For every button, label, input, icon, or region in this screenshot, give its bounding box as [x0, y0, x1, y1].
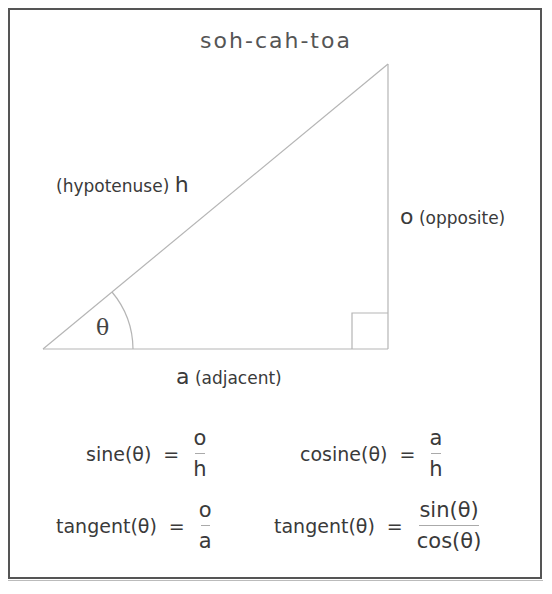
sine-formula: sine(θ) = o h — [86, 426, 207, 481]
fraction-bar — [431, 453, 440, 454]
tangent-sin-cos-formula: tangent(θ) = sin(θ) cos(θ) — [274, 498, 481, 553]
formula-lhs: sine(θ) — [86, 443, 151, 465]
numerator: a — [430, 426, 443, 450]
fraction: o h — [193, 426, 206, 481]
fraction-bar — [195, 453, 204, 454]
equals-sign: = — [169, 515, 185, 537]
diagram-title: soh-cah-toa — [0, 28, 552, 53]
formula-lhs: tangent(θ) — [274, 515, 375, 537]
opposite-symbol: o — [400, 204, 413, 229]
denominator: a — [199, 529, 212, 553]
numerator: o — [199, 498, 212, 522]
denominator: h — [429, 457, 442, 481]
fraction: o a — [199, 498, 212, 553]
opposite-label: o (opposite) — [400, 204, 505, 229]
angle-theta-label: θ — [96, 315, 109, 340]
formula-lhs: cosine(θ) — [300, 443, 387, 465]
adjacent-text: (adjacent) — [195, 368, 282, 388]
fraction: sin(θ) cos(θ) — [417, 498, 482, 553]
angle-arc — [112, 292, 133, 349]
opposite-text: (opposite) — [419, 208, 505, 228]
hypotenuse-label: (hypotenuse) h — [56, 172, 189, 197]
denominator: h — [193, 457, 206, 481]
fraction: a h — [429, 426, 442, 481]
adjacent-symbol: a — [176, 364, 189, 389]
hypotenuse-side — [43, 64, 388, 349]
numerator: sin(θ) — [419, 498, 478, 522]
equals-sign: = — [163, 443, 179, 465]
equals-sign: = — [399, 443, 415, 465]
equals-sign: = — [387, 515, 403, 537]
hypotenuse-text: (hypotenuse) — [56, 176, 169, 196]
fraction-bar — [201, 525, 210, 526]
denominator: cos(θ) — [417, 529, 482, 553]
hypotenuse-symbol: h — [175, 172, 189, 197]
right-angle-marker — [352, 313, 388, 349]
cosine-formula: cosine(θ) = a h — [300, 426, 443, 481]
adjacent-label: a (adjacent) — [176, 364, 282, 389]
formula-lhs: tangent(θ) — [56, 515, 157, 537]
numerator: o — [194, 426, 207, 450]
fraction-bar — [419, 525, 480, 526]
tangent-formula: tangent(θ) = o a — [56, 498, 212, 553]
